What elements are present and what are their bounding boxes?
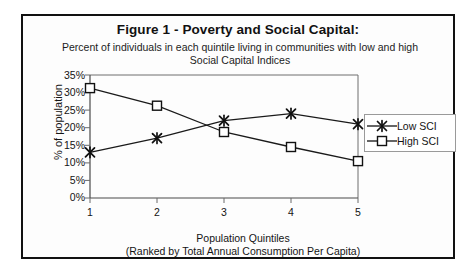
data-point-high-sci-4 — [287, 143, 296, 152]
legend-label-low-sci: Low SCI — [397, 120, 437, 132]
chart-legend: Low SCI High SCI — [364, 114, 456, 152]
legend-label-high-sci: High SCI — [397, 135, 439, 147]
legend-item-low-sci: Low SCI — [367, 118, 452, 133]
data-point-high-sci-3 — [220, 128, 229, 137]
x-tick-marks — [90, 198, 358, 203]
star-x-marker-icon — [367, 119, 397, 133]
data-point-high-sci-2 — [153, 101, 162, 110]
data-point-high-sci-1 — [86, 84, 95, 93]
y-tick-marks — [85, 75, 90, 198]
legend-item-high-sci: High SCI — [367, 133, 452, 148]
square-marker-icon — [367, 134, 397, 148]
data-point-high-sci-5 — [354, 157, 363, 166]
figure-border: Figure 1 - Poverty and Social Capital: P… — [21, 14, 455, 259]
